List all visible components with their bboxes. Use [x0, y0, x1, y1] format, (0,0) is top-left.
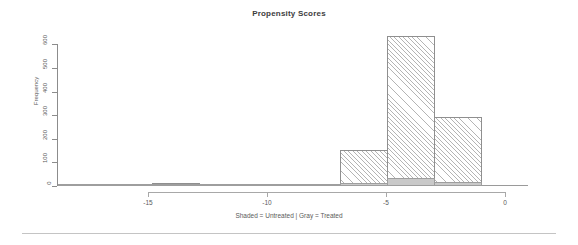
bar-treated	[199, 184, 247, 186]
y-tick-100	[52, 162, 57, 163]
x-axis-line	[148, 192, 505, 193]
bar-untreated	[387, 36, 435, 186]
bar-treated	[58, 184, 106, 186]
y-axis-title-text: Frequency	[33, 77, 39, 105]
y-tick-label-200-text: 200	[42, 130, 48, 140]
bar-treated	[246, 184, 294, 186]
y-tick-label-0-text: 0	[45, 181, 51, 184]
y-tick-label-400: 400	[0, 85, 50, 91]
bar-treated	[105, 184, 153, 186]
y-tick-0	[52, 186, 57, 187]
y-tick-label-600-text: 600	[42, 35, 48, 45]
y-tick-label-100: 100	[0, 155, 50, 161]
x-tick--10	[267, 192, 268, 197]
chart-caption: Shaded = Untreated | Gray = Treated	[0, 212, 578, 219]
x-tick-0	[505, 192, 506, 197]
page-title: Propensity Scores	[0, 9, 578, 18]
bar-treated	[387, 178, 435, 186]
y-tick-label-400-text: 400	[42, 83, 48, 93]
y-tick-label-200: 200	[0, 132, 50, 138]
y-tick-600	[52, 44, 57, 45]
x-tick--15	[148, 192, 149, 197]
y-tick-label-300-text: 300	[42, 106, 48, 116]
y-tick-500	[52, 68, 57, 69]
y-tick-label-500: 500	[0, 61, 50, 67]
bar-treated	[152, 184, 200, 186]
bar-untreated	[434, 117, 482, 186]
chart-figure: Propensity Scores Frequency 600 500 400 …	[0, 0, 578, 245]
y-tick-label-500-text: 500	[42, 59, 48, 69]
plot-area	[58, 30, 528, 186]
bottom-divider	[22, 233, 556, 234]
x-tick-label--10: -10	[255, 199, 279, 206]
y-tick-label-600: 600	[0, 37, 50, 43]
y-tick-200	[52, 139, 57, 140]
x-tick--5	[386, 192, 387, 197]
bar-treated	[434, 182, 482, 186]
y-tick-label-0: 0	[0, 180, 50, 186]
y-tick-label-300: 300	[0, 108, 50, 114]
x-tick-label--15: -15	[136, 199, 160, 206]
y-tick-400	[52, 92, 57, 93]
y-tick-300	[52, 115, 57, 116]
x-tick-label-0: 0	[493, 199, 517, 206]
bar-treated	[340, 183, 388, 186]
x-tick-label--5: -5	[374, 199, 398, 206]
y-tick-label-100-text: 100	[42, 153, 48, 163]
bar-untreated	[340, 150, 388, 186]
bar-treated	[293, 184, 341, 186]
